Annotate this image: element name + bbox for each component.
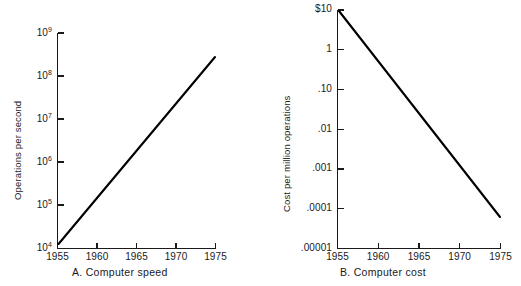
y-axis-title-b: Cost per million operations [282, 95, 292, 212]
y-tick-label-a-4: 108 [12, 71, 52, 81]
y-tick-label-b-0: $10 [284, 4, 332, 14]
x-tick-label-b-1: 1960 [361, 252, 395, 262]
chart-panel-computer-cost: $10 1 .10 .01 .001 .0001 .00001 1955 196… [260, 0, 521, 286]
x-tick-label-b-2: 1965 [402, 252, 436, 262]
y-tick-label-b-2: .10 [284, 84, 332, 94]
y-tick-marks-a [58, 33, 64, 249]
y-axis-title-a: Operations per second [13, 101, 23, 200]
x-tick-label-a-0: 1955 [41, 252, 75, 262]
x-tick-marks-a [58, 243, 216, 249]
y-tick-label-a-5: 109 [12, 28, 52, 38]
y-tick-label-a-1: 105 [12, 200, 52, 210]
x-tick-label-b-0: 1955 [321, 252, 355, 262]
x-tick-label-a-2: 1965 [120, 252, 154, 262]
panel-caption-b: B. Computer cost [340, 266, 426, 278]
x-tick-label-a-1: 1960 [80, 252, 114, 262]
x-tick-marks-b [338, 243, 501, 249]
y-tick-marks-b [338, 10, 344, 249]
chart-panel-computer-speed: 109 108 107 106 105 104 1955 1960 1965 1… [0, 0, 260, 286]
x-tick-label-a-4: 1975 [199, 252, 233, 262]
figure-two-panel-charts: 109 108 107 106 105 104 1955 1960 1965 1… [0, 0, 521, 286]
x-tick-label-b-3: 1970 [443, 252, 477, 262]
x-tick-label-b-4: 1975 [484, 252, 518, 262]
series-line-computer-cost [339, 11, 500, 217]
panel-caption-a: A. Computer speed [72, 266, 168, 278]
series-line-computer-speed [59, 57, 216, 244]
y-tick-label-b-1: 1 [284, 44, 332, 54]
x-tick-label-a-3: 1970 [159, 252, 193, 262]
